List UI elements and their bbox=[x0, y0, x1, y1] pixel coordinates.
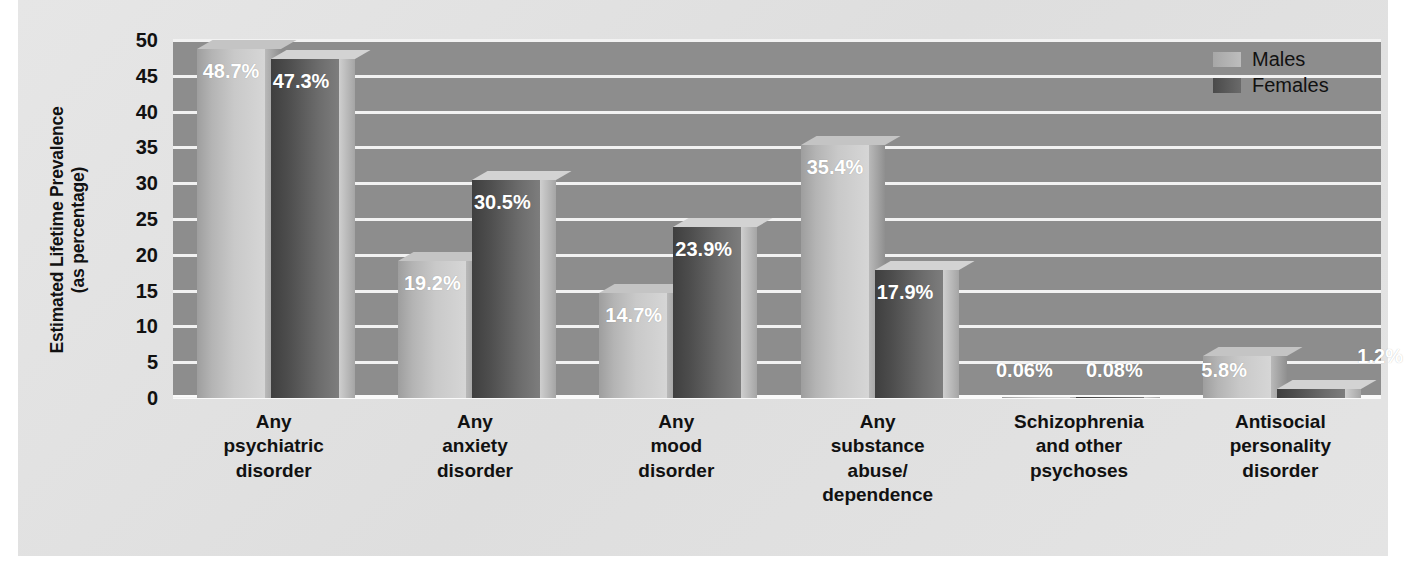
bar-top-face bbox=[801, 136, 901, 145]
category-label-line: personality bbox=[1180, 434, 1381, 458]
y-axis-tick-label: 0 bbox=[106, 388, 158, 408]
category-label-line: psychiatric bbox=[173, 434, 374, 458]
x-axis-category-label: Antisocialpersonalitydisorder bbox=[1180, 410, 1381, 483]
category-label-line: mood bbox=[576, 434, 777, 458]
bar-value-label: 23.9% bbox=[675, 239, 732, 259]
bar-value-label: 19.2% bbox=[404, 273, 461, 293]
x-axis-category-label: Anyanxietydisorder bbox=[374, 410, 575, 483]
legend-label: Males bbox=[1252, 49, 1305, 69]
bar-males bbox=[197, 49, 265, 398]
y-axis-tick-label: 35 bbox=[106, 137, 158, 157]
bar-side-face bbox=[339, 59, 355, 398]
y-axis-tick-label: 30 bbox=[106, 173, 158, 193]
y-axis-tick-labels: 50454035302520151050 bbox=[106, 40, 158, 398]
y-axis-tick-mark bbox=[173, 146, 197, 149]
bar-side-face bbox=[1144, 397, 1160, 399]
y-axis-tick-mark bbox=[173, 182, 197, 185]
bar-side-face bbox=[741, 227, 757, 398]
y-axis-tick-mark bbox=[173, 111, 197, 114]
legend-swatch-females bbox=[1213, 78, 1241, 93]
bar-top-face bbox=[197, 40, 297, 49]
x-axis-category-label: Anysubstanceabuse/dependence bbox=[777, 410, 978, 507]
category-label-line: disorder bbox=[173, 459, 374, 483]
bar-side-face bbox=[943, 270, 959, 398]
bar-females bbox=[271, 59, 339, 398]
bar-males bbox=[801, 145, 869, 398]
bar-females bbox=[1076, 397, 1144, 399]
bar-front-face bbox=[801, 145, 869, 398]
y-axis-tick-mark bbox=[173, 290, 197, 293]
y-axis-tick-label: 50 bbox=[106, 30, 158, 50]
bar-side-face bbox=[540, 180, 556, 398]
category-label-line: Schizophrenia bbox=[978, 410, 1179, 434]
y-axis-tick-mark bbox=[173, 254, 197, 257]
bar-front-face bbox=[1002, 397, 1070, 399]
bar-value-label: 14.7% bbox=[605, 305, 662, 325]
bar-value-label: 48.7% bbox=[203, 61, 260, 81]
legend-label: Females bbox=[1252, 75, 1329, 95]
category-label-line: psychoses bbox=[978, 459, 1179, 483]
category-label-line: anxiety bbox=[374, 434, 575, 458]
bar-front-face bbox=[1076, 397, 1144, 399]
bar-top-face bbox=[1203, 347, 1303, 356]
bar-value-label: 17.9% bbox=[877, 282, 934, 302]
chart-figure: Estimated Lifetime Prevalence (as percen… bbox=[0, 0, 1406, 576]
bar-value-label: 5.8% bbox=[1201, 360, 1247, 380]
x-axis-category-label: Schizophreniaand otherpsychoses bbox=[978, 410, 1179, 483]
bar-value-label: 30.5% bbox=[474, 192, 531, 212]
y-axis-tick-mark bbox=[173, 40, 197, 42]
bar-value-label: 0.08% bbox=[1086, 360, 1143, 380]
bar-value-label: 0.06% bbox=[996, 360, 1053, 380]
category-label-line: Any bbox=[173, 410, 374, 434]
bar-top-face bbox=[1277, 380, 1377, 389]
legend-item-females[interactable]: Females bbox=[1213, 72, 1363, 98]
y-axis-tick-label: 20 bbox=[106, 245, 158, 265]
legend-swatch-males bbox=[1213, 52, 1241, 67]
gridline bbox=[173, 39, 1381, 42]
bar-front-face bbox=[197, 49, 265, 398]
bar-top-face bbox=[472, 171, 572, 180]
y-axis-tick-label: 45 bbox=[106, 66, 158, 86]
y-axis-tick-marks bbox=[173, 40, 197, 398]
plot-area: 48.7%47.3%19.2%30.5%14.7%23.9%35.4%17.9%… bbox=[173, 40, 1381, 398]
y-axis-title: Estimated Lifetime Prevalence (as percen… bbox=[38, 20, 98, 440]
category-label-line: disorder bbox=[374, 459, 575, 483]
bar-value-label: 35.4% bbox=[807, 157, 864, 177]
y-axis-tick-mark bbox=[173, 361, 197, 364]
y-axis-tick-label: 5 bbox=[106, 352, 158, 372]
y-axis-tick-label: 15 bbox=[106, 281, 158, 301]
x-axis-category-label: Anypsychiatricdisorder bbox=[173, 410, 374, 483]
x-axis-category-label: Anymooddisorder bbox=[576, 410, 777, 483]
legend-item-males[interactable]: Males bbox=[1213, 46, 1363, 72]
category-label-line: dependence bbox=[777, 483, 978, 507]
category-label-line: disorder bbox=[576, 459, 777, 483]
category-label-line: abuse/ bbox=[777, 459, 978, 483]
chart-legend: MalesFemales bbox=[1213, 46, 1363, 104]
bar-front-face bbox=[1277, 389, 1345, 398]
bar-top-face bbox=[271, 50, 371, 59]
bar-value-label: 1.2% bbox=[1357, 346, 1403, 366]
category-label-line: Antisocial bbox=[1180, 410, 1381, 434]
category-label-line: substance bbox=[777, 434, 978, 458]
category-label-line: Any bbox=[576, 410, 777, 434]
bar-value-label: 47.3% bbox=[273, 71, 330, 91]
bar-front-face bbox=[271, 59, 339, 398]
category-label-line: disorder bbox=[1180, 459, 1381, 483]
y-axis-tick-mark bbox=[173, 397, 197, 398]
y-axis-tick-label: 40 bbox=[106, 102, 158, 122]
y-axis-tick-mark bbox=[173, 325, 197, 328]
bar-side-face bbox=[1345, 389, 1361, 398]
y-axis-tick-label: 10 bbox=[106, 316, 158, 336]
x-axis-category-labels: AnypsychiatricdisorderAnyanxietydisorder… bbox=[173, 410, 1381, 530]
bar-females bbox=[1277, 389, 1345, 398]
category-label-line: Any bbox=[374, 410, 575, 434]
category-label-line: Any bbox=[777, 410, 978, 434]
y-axis-title-line1: Estimated Lifetime Prevalence bbox=[47, 106, 68, 353]
bar-males bbox=[1002, 397, 1070, 399]
chart-panel: Estimated Lifetime Prevalence (as percen… bbox=[18, 0, 1388, 556]
bar-top-face bbox=[673, 218, 773, 227]
y-axis-tick-mark bbox=[173, 218, 197, 221]
y-axis-title-line2: (as percentage) bbox=[68, 167, 89, 293]
category-label-line: and other bbox=[978, 434, 1179, 458]
y-axis-tick-label: 25 bbox=[106, 209, 158, 229]
